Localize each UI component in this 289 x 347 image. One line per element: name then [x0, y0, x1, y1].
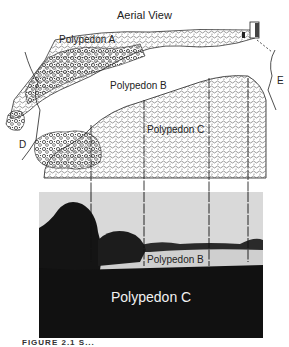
- label-polypedon-b: Polypedon B: [110, 81, 167, 91]
- photo-label-polypedon-b: Polypedon B: [147, 255, 204, 265]
- label-polypedon-a: Polypedon A: [59, 35, 115, 45]
- figure: Aerial View Polypedon A Polypedon B Poly…: [0, 0, 289, 347]
- label-point-d: D: [19, 140, 26, 150]
- figure-caption: FIGURE 2.1 S...: [22, 338, 95, 347]
- label-point-e: E: [277, 76, 284, 86]
- label-polypedon-c: Polypedon C: [147, 125, 204, 135]
- photo-label-polypedon-c: Polypedon C: [111, 290, 191, 304]
- ground-photo: [39, 192, 263, 338]
- aerial-view-title: Aerial View: [117, 10, 172, 21]
